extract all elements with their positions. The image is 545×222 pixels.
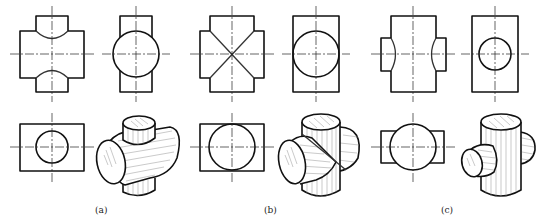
isometric-c [459, 114, 535, 197]
panel-label-a: (a) [95, 205, 107, 215]
panel-a [10, 6, 179, 196]
panel-label-b: (b) [264, 205, 277, 215]
side-view-c [461, 6, 529, 102]
side-view-a [102, 6, 170, 102]
panel-c [371, 6, 535, 197]
top-view-a [10, 113, 94, 182]
top-view-c [371, 113, 455, 182]
isometric-b [275, 114, 359, 197]
panel-b [190, 6, 359, 197]
front-view-a [10, 6, 94, 102]
front-view-c [371, 6, 456, 102]
top-view-b [190, 113, 274, 182]
isometric-a [93, 116, 180, 196]
front-view-b [190, 6, 274, 102]
side-view-b [282, 6, 350, 102]
panel-label-c: (c) [441, 205, 453, 215]
cylinder-intersection-figure [0, 0, 545, 222]
